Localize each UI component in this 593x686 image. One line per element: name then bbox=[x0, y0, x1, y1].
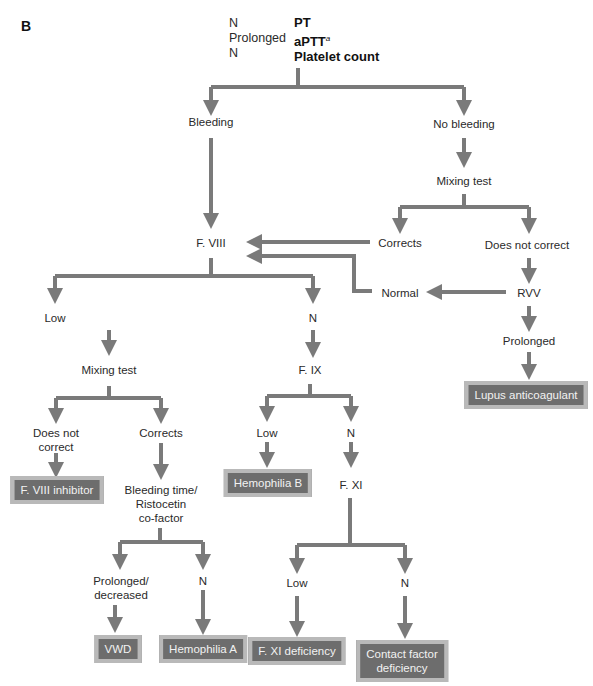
node-f9: F. IX bbox=[298, 363, 321, 377]
node-f11: F. XI bbox=[339, 478, 362, 492]
outcome-lupus-anticoagulant: Lupus anticoagulant bbox=[465, 381, 588, 409]
pt-test: PT bbox=[294, 15, 379, 31]
node-corrects-1: Corrects bbox=[378, 236, 421, 250]
aptt-test: aPTTa bbox=[294, 31, 379, 50]
node-normal: Normal bbox=[381, 286, 418, 300]
node-f8-low: Low bbox=[44, 311, 65, 325]
outcome-f8-inhibitor: F. VIII inhibitor bbox=[11, 476, 104, 504]
node-bt-n: N bbox=[199, 574, 207, 588]
panel-label: B bbox=[21, 18, 31, 34]
node-f9-low: Low bbox=[256, 426, 277, 440]
platelet-test: Platelet count bbox=[294, 49, 379, 65]
outcome-f11-deficiency: F. XI deficiency bbox=[248, 637, 345, 665]
node-bleeding-time-ristocetin: Bleeding time/ Ristocetin co-factor bbox=[125, 483, 198, 525]
node-prolonged-decreased: Prolonged/ decreased bbox=[93, 574, 149, 602]
node-f9-n: N bbox=[347, 426, 355, 440]
platelet-result: N bbox=[229, 46, 286, 61]
node-rvv-prolonged: Prolonged bbox=[503, 334, 555, 348]
node-mixing-test-2: Mixing test bbox=[82, 363, 137, 377]
outcome-vwd: VWD bbox=[95, 635, 142, 663]
node-f11-low: Low bbox=[286, 576, 307, 590]
node-does-not-correct-1: Does not correct bbox=[485, 238, 569, 252]
node-rvv: RVV bbox=[517, 286, 540, 300]
node-bleeding: Bleeding bbox=[189, 115, 234, 129]
header-tests: PT aPTTa Platelet count bbox=[294, 15, 379, 65]
node-f8-n: N bbox=[309, 311, 317, 325]
node-no-bleeding: No bleeding bbox=[433, 117, 494, 131]
aptt-result: Prolonged bbox=[229, 31, 286, 46]
outcome-contact-factor-deficiency: Contact factor deficiency bbox=[356, 640, 448, 682]
node-mixing-test-1: Mixing test bbox=[437, 174, 492, 188]
pt-result: N bbox=[229, 16, 286, 31]
node-does-not-correct-2: Does not correct bbox=[33, 426, 79, 454]
outcome-hemophilia-a: Hemophilia A bbox=[159, 635, 247, 663]
node-corrects-2: Corrects bbox=[139, 426, 182, 440]
outcome-hemophilia-b: Hemophilia B bbox=[224, 469, 312, 497]
header-results: N Prolonged N bbox=[229, 16, 286, 61]
footnote-marker: a bbox=[326, 34, 330, 43]
node-f11-n: N bbox=[401, 576, 409, 590]
node-f8: F. VIII bbox=[196, 236, 225, 250]
